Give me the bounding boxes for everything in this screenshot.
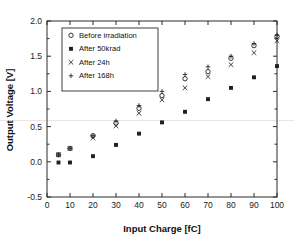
x-tick-label: 100: [270, 200, 284, 210]
data-point: [206, 97, 210, 101]
y-tick-label: 1.0: [30, 86, 42, 96]
y-tick-label: -0.5: [27, 192, 42, 202]
x-tick-label: 70: [203, 200, 213, 210]
y-tick-label: 0.5: [30, 122, 42, 132]
y-tick-label: 0.0: [30, 157, 42, 167]
data-point: [229, 86, 233, 90]
y-tick-label: 1.5: [30, 51, 42, 61]
chart-legend: Before irradiationAfter 50kradAfter 24hA…: [62, 28, 158, 91]
y-tick-label: 2.0: [30, 16, 42, 26]
x-tick-label: 40: [134, 200, 144, 210]
x-tick-label: 30: [111, 200, 121, 210]
data-point: [252, 75, 256, 79]
data-point: [57, 161, 61, 165]
x-tick-label: 20: [88, 200, 98, 210]
x-axis-title: Input Charge [fC]: [123, 223, 201, 234]
y-axis-title: Output Voltage [V]: [4, 69, 15, 152]
legend-label: After 168h: [79, 71, 114, 80]
legend-label: After 24h: [79, 58, 110, 67]
chart-figure: 0102030405060708090100 -0.50.00.51.01.52…: [0, 0, 294, 240]
x-tick-label: 60: [180, 200, 190, 210]
legend-label: After 50krad: [79, 44, 120, 53]
data-point: [275, 64, 279, 68]
x-tick-label: 10: [65, 200, 75, 210]
x-tick-label: 80: [226, 200, 236, 210]
x-tick-label: 90: [249, 200, 259, 210]
x-tick-label: 50: [157, 200, 167, 210]
x-tick-label: 0: [45, 200, 50, 210]
data-point: [68, 161, 72, 165]
scatter-plot-svg: 0102030405060708090100 -0.50.00.51.01.52…: [0, 0, 294, 240]
data-point: [137, 132, 141, 136]
data-point: [91, 154, 95, 158]
legend-marker: [69, 47, 73, 51]
legend-label: Before irradiation: [79, 31, 137, 40]
data-point: [183, 110, 187, 114]
data-point: [160, 120, 164, 124]
data-point: [114, 143, 118, 147]
